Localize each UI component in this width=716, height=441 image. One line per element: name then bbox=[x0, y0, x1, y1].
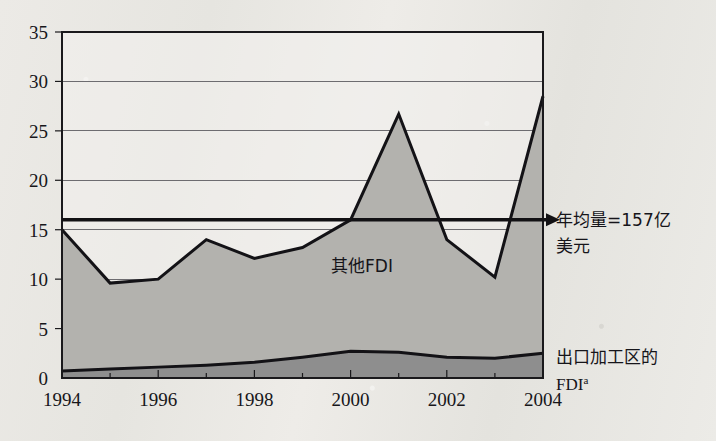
y-tick-label-5: 5 bbox=[39, 319, 49, 340]
y-tick-label-10: 10 bbox=[29, 269, 48, 290]
epz-fdi-label-text: FDI bbox=[556, 375, 584, 394]
y-axis-ticks bbox=[55, 32, 62, 329]
annual-average-label-line2: 美元 bbox=[556, 236, 590, 256]
y-tick-label-30: 30 bbox=[29, 71, 48, 92]
y-tick-label-20: 20 bbox=[29, 170, 48, 191]
y-tick-label-25: 25 bbox=[29, 121, 48, 142]
fdi-stacked-area-chart: 05101520253035 199419961998200020022004 … bbox=[0, 0, 716, 441]
x-tick-label-1994: 1994 bbox=[43, 389, 82, 410]
x-tick-label-1996: 1996 bbox=[139, 389, 177, 410]
chart-canvas: 05101520253035 199419961998200020022004 … bbox=[0, 0, 716, 441]
other-fdi-inline-label: 其他FDI bbox=[331, 256, 393, 276]
y-axis-tick-labels: 05101520253035 bbox=[29, 22, 48, 389]
x-tick-label-1998: 1998 bbox=[235, 389, 273, 410]
epz-fdi-label-line2: FDIa bbox=[556, 374, 588, 394]
x-tick-label-2000: 2000 bbox=[332, 389, 370, 410]
y-tick-label-35: 35 bbox=[29, 22, 48, 43]
annual-average-label-line1: 年均量=157亿 bbox=[556, 210, 671, 230]
y-tick-label-15: 15 bbox=[29, 220, 48, 241]
y-tick-label-0: 0 bbox=[39, 368, 49, 389]
epz-fdi-superscript: a bbox=[583, 374, 588, 386]
epz-fdi-label-line1: 出口加工区的 bbox=[556, 347, 658, 367]
x-axis-tick-labels: 199419961998200020022004 bbox=[43, 389, 563, 410]
x-tick-label-2002: 2002 bbox=[428, 389, 466, 410]
